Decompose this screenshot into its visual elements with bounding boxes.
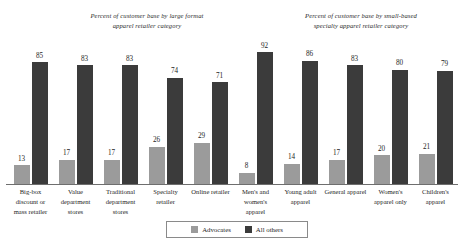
- bar-value-label: 74: [171, 68, 178, 75]
- bar-value-label: 79: [441, 61, 448, 68]
- bar-wrapper: 80: [392, 30, 408, 184]
- bar-wrapper: 92: [257, 30, 273, 184]
- bar: [329, 160, 345, 184]
- legend-item-all-others: All others: [245, 226, 283, 233]
- bar-wrapper: 86: [302, 30, 318, 184]
- bar-value-label: 13: [18, 156, 25, 163]
- bar-value-label: 29: [198, 133, 205, 140]
- bar-value-label: 17: [333, 150, 340, 157]
- category-label: Traditional department stores: [98, 187, 143, 217]
- bar-group: 1486: [278, 30, 323, 184]
- legend-label-all-others: All others: [256, 226, 283, 233]
- bar-wrapper: 83: [122, 30, 138, 184]
- category-label: Big-box discount or mass retailer: [8, 187, 53, 217]
- bar: [32, 62, 48, 184]
- bar-groups: 138517831783267429718921486178320802179: [8, 30, 458, 184]
- bar-value-label: 8: [245, 163, 249, 170]
- bar-wrapper: 14: [284, 30, 300, 184]
- bar-wrapper: 74: [167, 30, 183, 184]
- bar: [77, 65, 93, 184]
- bar-value-label: 86: [306, 51, 313, 58]
- bar-wrapper: 83: [77, 30, 93, 184]
- bar-wrapper: 83: [347, 30, 363, 184]
- bar-group: 2179: [413, 30, 458, 184]
- x-axis-baseline: [6, 184, 458, 185]
- bar-value-label: 83: [81, 56, 88, 63]
- bar-group: 1783: [323, 30, 368, 184]
- bar-value-label: 26: [153, 137, 160, 144]
- bar-value-label: 20: [378, 146, 385, 153]
- bar: [212, 82, 228, 184]
- bar-wrapper: 71: [212, 30, 228, 184]
- bar: [14, 165, 30, 184]
- bar: [122, 65, 138, 184]
- legend-item-advocates: Advocates: [191, 226, 231, 233]
- bar: [149, 147, 165, 184]
- bar: [239, 173, 255, 184]
- category-label: Value department stores: [53, 187, 98, 217]
- bar-wrapper: 21: [419, 30, 435, 184]
- category-label: Children's apparel: [413, 187, 458, 217]
- bar-value-label: 17: [63, 150, 70, 157]
- bar-wrapper: 85: [32, 30, 48, 184]
- bar: [194, 143, 210, 184]
- chart-legend: Advocates All others: [166, 221, 308, 238]
- category-label: Online retailer: [188, 187, 233, 217]
- bar-wrapper: 17: [59, 30, 75, 184]
- bar: [374, 155, 390, 184]
- category-label: General apparel: [323, 187, 368, 217]
- bar-wrapper: 79: [437, 30, 453, 184]
- bar-wrapper: 17: [329, 30, 345, 184]
- bar-value-label: 92: [261, 43, 268, 50]
- bar-wrapper: 13: [14, 30, 30, 184]
- bar-group: 2080: [368, 30, 413, 184]
- bar: [419, 154, 435, 184]
- bar-value-label: 71: [216, 73, 223, 80]
- legend-swatch-advocates: [191, 226, 198, 233]
- bar-group: 2674: [143, 30, 188, 184]
- category-label: Specialty retailer: [143, 187, 188, 217]
- bar-group: 1385: [8, 30, 53, 184]
- plot-area: 138517831783267429718921486178320802179: [0, 30, 464, 184]
- bar: [59, 160, 75, 184]
- bar: [392, 70, 408, 184]
- category-label: Women's apparel only: [368, 187, 413, 217]
- bar-wrapper: 20: [374, 30, 390, 184]
- bar-group: 1783: [53, 30, 98, 184]
- legend-label-advocates: Advocates: [202, 226, 231, 233]
- category-label: Young adult apparel: [278, 187, 323, 217]
- bar-wrapper: 8: [239, 30, 255, 184]
- bar-group: 2971: [188, 30, 233, 184]
- bar: [437, 71, 453, 184]
- bar-wrapper: 17: [104, 30, 120, 184]
- annotation-large-format: Percent of customer base by large format…: [86, 11, 208, 30]
- bar-group: 1783: [98, 30, 143, 184]
- bar: [167, 78, 183, 184]
- bar: [347, 65, 363, 184]
- bar-group: 892: [233, 30, 278, 184]
- category-labels: Big-box discount or mass retailerValue d…: [8, 187, 458, 217]
- bar-wrapper: 29: [194, 30, 210, 184]
- chart-page: Percent of customer base by large format…: [0, 0, 464, 245]
- bar-value-label: 83: [351, 56, 358, 63]
- bar: [284, 164, 300, 184]
- annotation-small-based-specialty: Percent of customer base by small-based …: [296, 11, 426, 30]
- bar-value-label: 17: [108, 150, 115, 157]
- category-label: Men's and women's apparel: [233, 187, 278, 217]
- bar: [104, 160, 120, 184]
- bar-value-label: 14: [288, 154, 295, 161]
- bar-value-label: 80: [396, 60, 403, 67]
- bar-value-label: 21: [423, 144, 430, 151]
- bar: [302, 61, 318, 184]
- bar-wrapper: 26: [149, 30, 165, 184]
- bar: [257, 52, 273, 184]
- bar-value-label: 83: [126, 56, 133, 63]
- bar-value-label: 85: [36, 53, 43, 60]
- legend-swatch-all-others: [245, 226, 252, 233]
